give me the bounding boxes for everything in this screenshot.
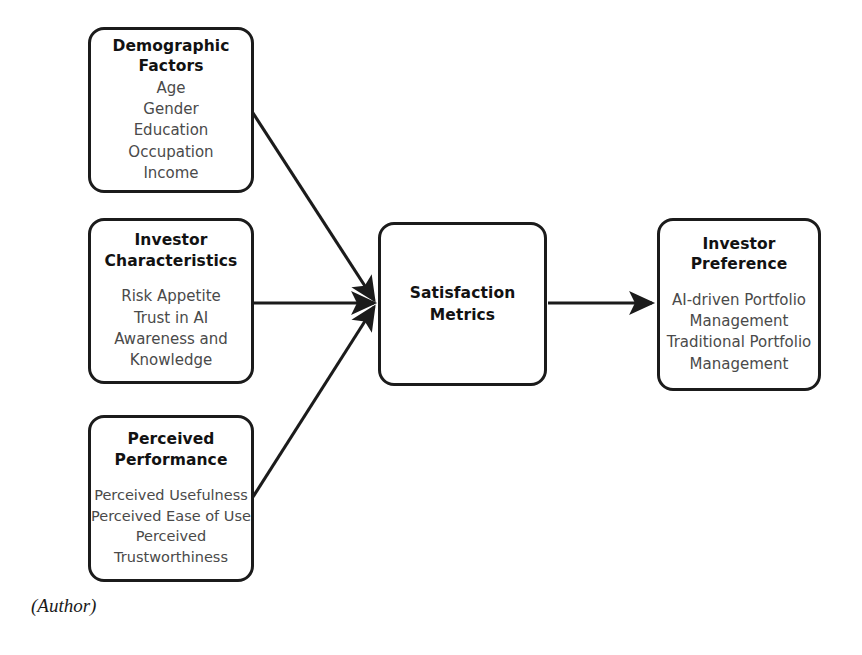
node-item-list: Risk Appetite Trust in AI Awareness and … [114, 286, 228, 371]
node-title: Investor Preference [691, 234, 788, 275]
node-title: Perceived Performance [115, 429, 228, 470]
node-perceived-performance[interactable]: Perceived Performance Perceived Usefulne… [88, 415, 254, 582]
node-item-list: Age Gender Education Occupation Income [128, 78, 213, 184]
node-item: Trustworthiness [91, 547, 251, 568]
node-item: AI-driven Portfolio [667, 290, 812, 311]
node-title: Satisfaction Metrics [410, 282, 516, 327]
node-title: Demographic Factors [112, 36, 229, 77]
node-title-line2: Characteristics [105, 252, 238, 270]
node-item: Perceived [91, 526, 251, 547]
node-item: Traditional Portfolio [667, 332, 812, 353]
figure-source-caption: (Author) [31, 595, 96, 617]
node-item: Risk Appetite [114, 286, 228, 307]
node-title-line2: Performance [115, 451, 228, 469]
node-item: Perceived Usefulness [91, 485, 251, 506]
node-item: Management [667, 354, 812, 375]
node-investor-characteristics[interactable]: Investor Characteristics Risk Appetite T… [88, 218, 254, 384]
node-title-line1: Investor [134, 231, 207, 249]
node-title-line1: Investor [702, 235, 775, 253]
node-item: Income [128, 163, 213, 184]
node-item: Age [128, 78, 213, 99]
node-satisfaction-metrics[interactable]: Satisfaction Metrics [378, 222, 547, 386]
node-title-line1: Satisfaction [410, 284, 516, 302]
node-item: Gender [128, 99, 213, 120]
node-title-line2: Factors [139, 57, 204, 75]
edge-demographic-to-satisfaction [251, 110, 374, 300]
edge-perceived-performance-to-satisfaction [251, 307, 374, 500]
node-item: Education [128, 120, 213, 141]
node-item: Management [667, 311, 812, 332]
node-title: Investor Characteristics [105, 230, 238, 271]
node-title-line2: Preference [691, 255, 788, 273]
node-title-line2: Metrics [430, 306, 495, 324]
node-item: Perceived Ease of Use [91, 506, 251, 527]
node-item-list: Perceived Usefulness Perceived Ease of U… [91, 485, 251, 567]
node-title-line1: Perceived [127, 430, 214, 448]
node-item: Trust in AI [114, 308, 228, 329]
node-item: Awareness and [114, 329, 228, 350]
node-item-list: AI-driven Portfolio Management Tradition… [667, 290, 812, 375]
node-investor-preference[interactable]: Investor Preference AI-driven Portfolio … [657, 218, 821, 391]
node-item: Occupation [128, 142, 213, 163]
diagram-canvas: Demographic Factors Age Gender Education… [0, 0, 862, 655]
node-demographic-factors[interactable]: Demographic Factors Age Gender Education… [88, 27, 254, 193]
node-title-line1: Demographic [112, 37, 229, 55]
node-item: Knowledge [114, 350, 228, 371]
